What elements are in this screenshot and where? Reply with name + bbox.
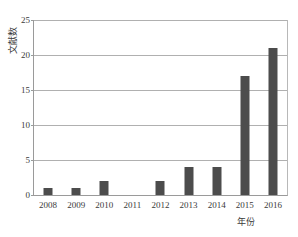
bar <box>44 188 53 195</box>
bar-slot <box>34 20 62 195</box>
bar-chart-figure: 文献数 0510152025 2008200920102011201220132… <box>0 0 298 237</box>
plot-area: 0510152025 20082009201020112012201320142… <box>33 20 288 196</box>
bar-slot <box>231 20 259 195</box>
bar <box>240 76 249 195</box>
bar <box>184 167 193 195</box>
bar-slot <box>203 20 231 195</box>
y-axis-tick-mark <box>31 195 34 196</box>
y-axis-tick-label: 15 <box>21 85 30 95</box>
bars-layer <box>34 20 287 195</box>
bar <box>72 188 81 195</box>
bar-slot <box>259 20 287 195</box>
bar <box>100 181 109 195</box>
bar-slot <box>118 20 146 195</box>
bar <box>156 181 165 195</box>
x-axis-tick-label: 2008 <box>39 200 57 210</box>
x-axis-tick-label: 2015 <box>236 200 254 210</box>
x-axis-title: 年份 <box>237 215 255 228</box>
y-axis-tick-label: 0 <box>26 190 31 200</box>
y-axis-tick-label: 20 <box>21 50 30 60</box>
bar-slot <box>90 20 118 195</box>
x-axis-tick-label: 2016 <box>264 200 282 210</box>
x-axis-tick-label: 2014 <box>208 200 226 210</box>
bar-slot <box>62 20 90 195</box>
y-axis-tick-label: 5 <box>26 155 31 165</box>
bar <box>268 48 277 195</box>
bar-slot <box>146 20 174 195</box>
y-axis-tick-label: 10 <box>21 120 30 130</box>
y-axis-tick-label: 25 <box>21 15 30 25</box>
x-axis-tick-label: 2012 <box>152 200 170 210</box>
bar <box>212 167 221 195</box>
x-axis-tick-label: 2011 <box>124 200 142 210</box>
x-axis-tick-label: 2009 <box>67 200 85 210</box>
x-axis-tick-label: 2013 <box>180 200 198 210</box>
bar-slot <box>175 20 203 195</box>
y-axis-title: 文献数 <box>6 13 19 69</box>
x-axis-tick-label: 2010 <box>95 200 113 210</box>
